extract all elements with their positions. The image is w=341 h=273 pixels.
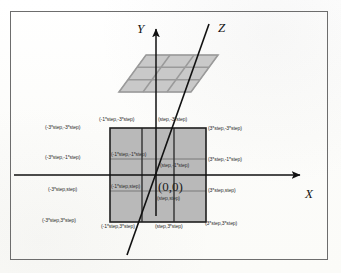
- top-plane-surface: [119, 55, 218, 92]
- coord-label-right-top: (3*step,-3*step): [208, 126, 242, 131]
- coord-label-left-upper-mid: (-3*step,-1*step): [45, 155, 80, 160]
- coord-label-interior-lower-right: (step,step): [157, 196, 180, 201]
- origin-label: (0,0): [158, 180, 183, 193]
- coord-label-bottom-right-inner: (step,3*step): [155, 224, 183, 229]
- x-axis-label: X: [305, 187, 313, 200]
- coord-label-left-top: (-3*step,-3*step): [45, 125, 80, 130]
- coordinate-system-figure: Y Z X (0,0) (-3*step,-3*step) (-3*step,-…: [0, 0, 341, 273]
- coord-label-right-lower-mid: (3*step,step): [208, 188, 236, 193]
- coord-label-bottom-left-inner: (-1*step,3*step): [101, 224, 135, 229]
- coord-label-top-right-inner: (step,-3*step): [158, 117, 187, 122]
- z-axis-label: Z: [218, 21, 225, 34]
- diagram-canvas: [0, 0, 341, 273]
- coord-label-right-upper-mid: (3*step,-1*step): [208, 157, 242, 162]
- coord-label-interior-lower-left: (-1*step,step): [111, 184, 140, 189]
- coord-label-left-lower-mid: (-3*step,step): [48, 187, 77, 192]
- coord-label-left-bottom: (-3*step,3*step): [42, 218, 76, 223]
- y-axis-label: Y: [137, 22, 144, 35]
- top-grid-plane: [119, 55, 218, 92]
- coord-label-interior-upper-right: (step,-1*step): [160, 163, 189, 168]
- coord-label-interior-upper-left: (-1*step,-1*step): [111, 152, 146, 157]
- coord-label-top-left-inner: (-1*step,-3*step): [99, 117, 134, 122]
- coord-label-right-bottom: (3*step,3*step): [205, 221, 237, 226]
